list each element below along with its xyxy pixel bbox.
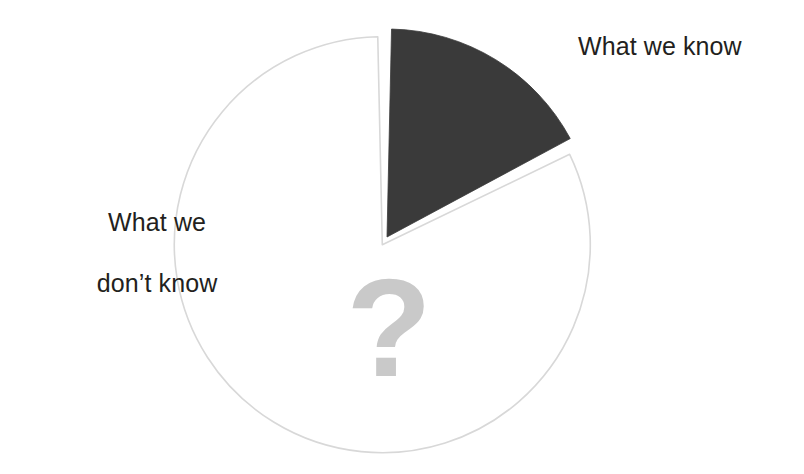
- slice-label-unknown-line1: What we: [108, 208, 206, 236]
- slice-label-known: What we know: [578, 31, 742, 62]
- slice-label-unknown-line2: don’t know: [97, 269, 218, 297]
- pie-chart-figure: ? What we know What we don’t know: [0, 0, 804, 474]
- slice-label-unknown: What we don’t know: [58, 176, 228, 329]
- question-mark-annotation: ?: [330, 258, 448, 398]
